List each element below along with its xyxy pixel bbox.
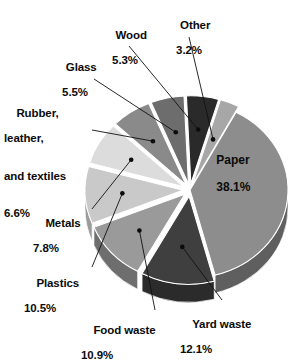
leader-dot-wood <box>196 127 201 132</box>
slice-label-metals-name: Metals <box>45 217 80 229</box>
slice-label-glass-name: Glass <box>66 61 97 73</box>
chart-title <box>0 0 302 1</box>
slice-label-food-waste: Food waste 10.9% <box>81 311 173 363</box>
leader-dot-plastics <box>120 191 125 196</box>
slice-label-rubber-line3: and textiles <box>4 170 100 183</box>
slice-label-paper-pct: 38.1% <box>216 180 250 194</box>
slice-label-yard-waste: Yard waste 12.1% <box>180 305 272 363</box>
leader-dot-metals <box>129 157 134 162</box>
slice-label-metals-pct: 7.8% <box>33 242 105 255</box>
slice-label-wood-name: Wood <box>116 29 147 41</box>
slice-label-yard-waste-name: Yard waste <box>192 318 251 330</box>
slice-label-paper: Paper 38.1% <box>203 140 250 208</box>
slice-label-plastics-name: Plastics <box>36 277 79 289</box>
slice-label-other-name: Other <box>180 19 210 31</box>
leader-dot-rubber-leather-and-textiles <box>151 139 156 144</box>
leader-dot-yard-waste <box>180 245 185 250</box>
slice-label-yard-waste-pct: 12.1% <box>180 343 272 356</box>
slice-label-food-waste-name: Food waste <box>93 324 155 336</box>
slice-label-other: Other 3.2% <box>158 6 220 82</box>
leader-dot-food-waste <box>137 228 142 233</box>
slice-label-rubber-line2: leather, <box>4 132 100 145</box>
slice-label-food-waste-pct: 10.9% <box>81 349 173 362</box>
slice-label-paper-name: Paper <box>216 153 249 167</box>
slice-label-rubber-line1: Rubber, <box>16 107 58 119</box>
leader-dot-glass <box>173 130 178 135</box>
slice-label-other-pct: 3.2% <box>158 44 220 57</box>
